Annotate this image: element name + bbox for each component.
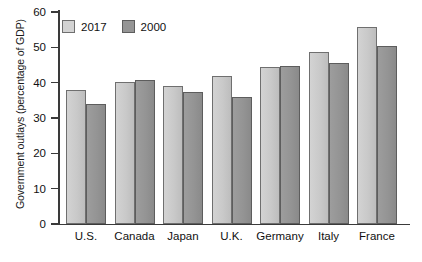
bar-germany-2000[interactable] <box>280 66 300 224</box>
legend-swatch-2000 <box>122 20 135 33</box>
bar-france-2000[interactable] <box>377 46 397 224</box>
bar-france-2017[interactable] <box>357 27 377 224</box>
bar-canada-2000[interactable] <box>135 80 155 224</box>
y-tick-mark <box>51 188 58 189</box>
y-tick-mark <box>51 82 58 83</box>
bar-group <box>212 12 252 224</box>
y-tick-mark <box>51 153 58 154</box>
bar-japan-2000[interactable] <box>183 92 203 225</box>
bar-group <box>115 12 155 224</box>
bar-japan-2017[interactable] <box>163 86 183 224</box>
y-tick-label: 0 <box>0 218 46 230</box>
y-tick-mark <box>51 117 58 118</box>
bar-group <box>260 12 300 224</box>
y-tick-label: 60 <box>0 6 46 18</box>
y-tick-label: 10 <box>0 183 46 195</box>
plot-area <box>58 12 408 224</box>
y-tick-mark <box>51 47 58 48</box>
legend-label-2000: 2000 <box>141 21 167 33</box>
bar-group <box>66 12 106 224</box>
y-tick-mark <box>51 11 58 12</box>
bar-us-2000[interactable] <box>86 104 106 224</box>
bar-chart-figure: Government outlays (percentage of GDP) 0… <box>0 0 422 262</box>
y-tick-label: 20 <box>0 147 46 159</box>
y-tick-label: 50 <box>0 41 46 53</box>
x-axis-label-france: France <box>337 230 417 242</box>
bar-group <box>309 12 349 224</box>
legend-entry-2017[interactable]: 2017 <box>62 20 107 33</box>
bar-group <box>357 12 397 224</box>
bar-uk-2000[interactable] <box>232 97 252 224</box>
legend-label-2017: 2017 <box>81 21 107 33</box>
bar-us-2017[interactable] <box>66 90 86 224</box>
y-tick-label: 40 <box>0 77 46 89</box>
y-tick-mark <box>51 223 58 224</box>
legend-entry-2000[interactable]: 2000 <box>122 20 167 33</box>
bar-germany-2017[interactable] <box>260 67 280 224</box>
legend-swatch-2017 <box>62 20 75 33</box>
chart-legend: 2017 2000 <box>62 20 166 33</box>
bar-italy-2000[interactable] <box>329 63 349 224</box>
y-tick-label: 30 <box>0 112 46 124</box>
bar-canada-2017[interactable] <box>115 82 135 224</box>
bar-italy-2017[interactable] <box>309 52 329 224</box>
bar-group <box>163 12 203 224</box>
bar-uk-2017[interactable] <box>212 76 232 224</box>
